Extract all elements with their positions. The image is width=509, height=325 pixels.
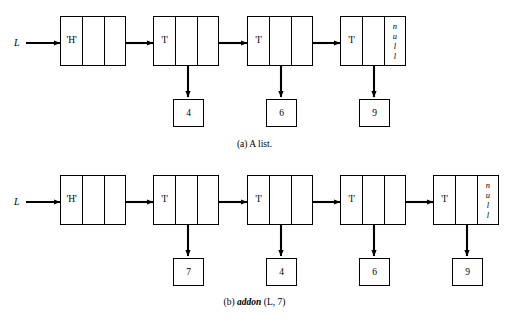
null-char: l [394, 41, 396, 51]
pointer-label-L: L [14, 38, 20, 48]
list-node[interactable]: 'I' [153, 175, 219, 225]
node-label-cell: 'I' [248, 17, 269, 65]
null-char: u [393, 31, 397, 41]
panel-b-canvas: L 'H' 'I' 'I' 'I' [0, 158, 509, 325]
node-label-cell: 'I' [341, 176, 362, 224]
node-next-cell [291, 17, 312, 65]
list-node[interactable]: 'I' n u l l [340, 16, 406, 66]
list-node[interactable]: 'I' n u l l [433, 175, 499, 225]
null-char: n [486, 180, 490, 190]
node-null-cell: n u l l [477, 176, 498, 224]
caption-arguments: (L, 7) [264, 297, 286, 307]
node-data-cell [175, 176, 196, 224]
node-label-cell: 'H' [61, 176, 82, 224]
data-box[interactable]: 6 [359, 258, 390, 286]
data-box[interactable]: 7 [173, 258, 204, 286]
node-data-cell [269, 17, 290, 65]
caption-prefix: (b) [224, 297, 235, 307]
node-next-cell [104, 17, 125, 65]
data-value: 9 [372, 108, 377, 118]
panel-a-caption: (a) A list. [0, 140, 509, 150]
null-char: l [487, 200, 489, 210]
caption-text: A list. [249, 139, 272, 149]
node-data-cell [82, 176, 103, 224]
node-next-cell [197, 17, 218, 65]
panel-b-caption: (b) addon (L, 7) [0, 298, 509, 308]
data-value: 6 [279, 108, 284, 118]
caption-operation: addon [237, 297, 261, 307]
node-null-cell: n u l l [384, 17, 405, 65]
node-next-cell [104, 176, 125, 224]
list-diagram-panel-b: L 'H' 'I' 'I' 'I' [0, 158, 509, 325]
data-box[interactable]: 9 [359, 99, 390, 127]
data-value: 7 [186, 267, 191, 277]
data-box[interactable]: 6 [266, 99, 297, 127]
node-next-cell [291, 176, 312, 224]
list-node[interactable]: 'I' [247, 175, 313, 225]
list-node[interactable]: 'H' [60, 16, 126, 66]
data-value: 4 [186, 108, 191, 118]
node-label-cell: 'I' [154, 17, 175, 65]
caption-prefix: (a) [237, 139, 248, 149]
node-next-cell [197, 176, 218, 224]
node-data-cell [175, 17, 196, 65]
node-data-cell [362, 176, 383, 224]
data-box[interactable]: 4 [266, 258, 297, 286]
data-box[interactable]: 4 [173, 99, 204, 127]
node-label-cell: 'I' [434, 176, 455, 224]
null-char: l [487, 210, 489, 220]
node-label-cell: 'I' [154, 176, 175, 224]
panel-a-canvas: L 'H' 'I' 'I' 'I' [0, 0, 509, 160]
list-node[interactable]: 'I' [340, 175, 406, 225]
data-value: 6 [372, 267, 377, 277]
null-char: n [393, 21, 397, 31]
node-data-cell [82, 17, 103, 65]
node-data-cell [455, 176, 476, 224]
data-value: 4 [279, 267, 284, 277]
list-node[interactable]: 'H' [60, 175, 126, 225]
node-data-cell [269, 176, 290, 224]
data-value: 9 [465, 267, 470, 277]
null-char: l [394, 51, 396, 61]
list-node[interactable]: 'I' [153, 16, 219, 66]
node-label-cell: 'I' [341, 17, 362, 65]
node-next-cell [384, 176, 405, 224]
node-label-cell: 'I' [248, 176, 269, 224]
pointer-label-L: L [14, 197, 20, 207]
node-data-cell [362, 17, 383, 65]
list-node[interactable]: 'I' [247, 16, 313, 66]
data-box[interactable]: 9 [452, 258, 483, 286]
node-label-cell: 'H' [61, 17, 82, 65]
null-char: u [486, 190, 490, 200]
list-diagram-panel-a: L 'H' 'I' 'I' 'I' [0, 0, 509, 160]
